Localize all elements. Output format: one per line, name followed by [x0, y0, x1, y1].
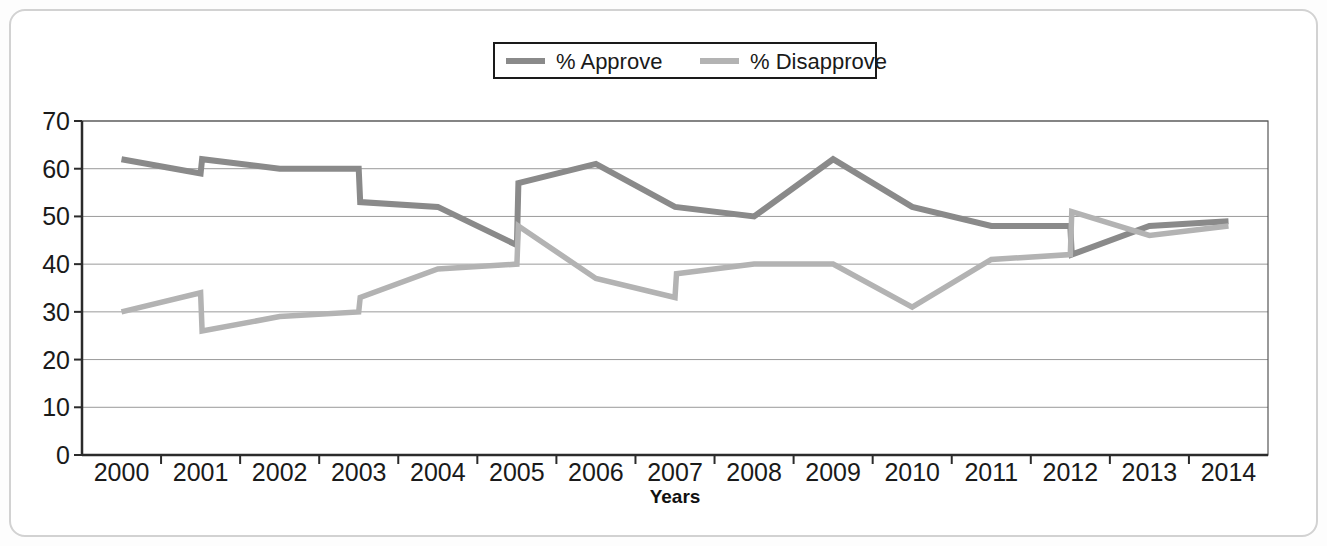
x-tick-label-2002: 2002 [252, 458, 308, 486]
y-tick-label-70: 70 [42, 107, 70, 135]
x-tick-label-2001: 2001 [173, 458, 229, 486]
series-line-approve [122, 159, 1229, 254]
x-tick-label-2000: 2000 [94, 458, 150, 486]
legend-label-approve: % Approve [556, 49, 662, 74]
x-tick-label-2009: 2009 [805, 458, 861, 486]
x-tick-label-2006: 2006 [568, 458, 624, 486]
y-tick-label-10: 10 [42, 393, 70, 421]
y-tick-label-60: 60 [42, 155, 70, 183]
x-tick-label-2004: 2004 [410, 458, 466, 486]
y-tick-label-50: 50 [42, 202, 70, 230]
series-line-disapprove [122, 212, 1229, 331]
x-axis-labels: 2000200120022003200420052006200720082009… [94, 455, 1257, 486]
x-tick-label-2011: 2011 [964, 458, 1018, 486]
x-tick-label-2010: 2010 [884, 458, 940, 486]
x-tick-label-2005: 2005 [489, 458, 545, 486]
x-axis-title: Years [650, 486, 701, 507]
x-tick-label-2007: 2007 [647, 458, 703, 486]
y-tick-label-30: 30 [42, 298, 70, 326]
y-tick-label-40: 40 [42, 250, 70, 278]
chart-svg: 706050403020100 200020012002200320042005… [0, 0, 1327, 546]
x-tick-label-2003: 2003 [331, 458, 387, 486]
y-tick-label-20: 20 [42, 346, 70, 374]
x-tick-label-2008: 2008 [726, 458, 782, 486]
chart-page: 706050403020100 200020012002200320042005… [0, 0, 1327, 546]
x-tick-label-2013: 2013 [1122, 458, 1178, 486]
x-tick-label-2012: 2012 [1043, 458, 1099, 486]
chart-legend: % Approve % Disapprove [494, 43, 887, 78]
data-series-group [122, 159, 1229, 331]
legend-label-disapprove: % Disapprove [750, 49, 887, 74]
line-chart: 706050403020100 200020012002200320042005… [0, 0, 1327, 546]
y-axis-labels: 706050403020100 [42, 107, 82, 469]
x-tick-label-2014: 2014 [1201, 458, 1257, 486]
y-tick-label-0: 0 [56, 441, 70, 469]
